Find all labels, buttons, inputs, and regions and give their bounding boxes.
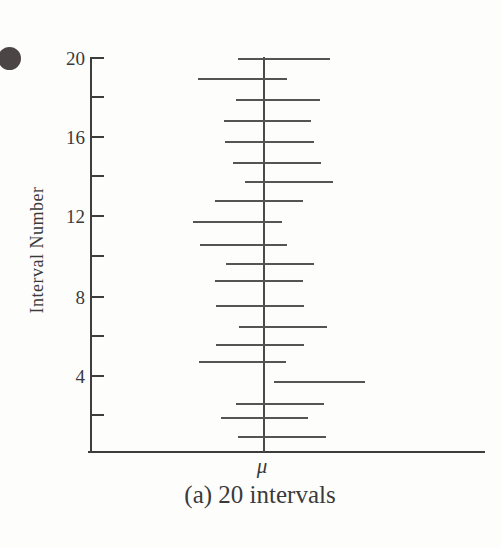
- y-axis-tick-label-16: 16: [52, 128, 85, 147]
- interval-line-12: [193, 221, 282, 224]
- interval-line-14: [245, 181, 333, 184]
- figure-caption: (a) 20 intervals: [184, 481, 335, 509]
- y-axis-tick-12: [91, 215, 104, 217]
- y-axis-tick-label-8: 8: [52, 288, 85, 307]
- interval-line-10: [226, 263, 314, 266]
- interval-line-5: [199, 361, 286, 364]
- y-axis-tick-6: [91, 335, 104, 337]
- interval-line-13: [215, 200, 303, 203]
- y-axis-tick-16: [91, 136, 104, 138]
- interval-line-8: [216, 305, 304, 308]
- y-axis-tick-14: [91, 175, 104, 177]
- interval-line-19: [198, 78, 287, 81]
- interval-line-6: [216, 344, 304, 347]
- interval-line-2: [221, 417, 308, 420]
- y-axis-tick-label-12: 12: [52, 207, 85, 226]
- mu-label: μ: [257, 454, 268, 479]
- interval-line-9: [215, 280, 303, 283]
- confidence-interval-figure: Interval Number μ 20161284 (a) 20 interv…: [0, 0, 501, 548]
- mu-reference-line: [263, 57, 265, 452]
- y-axis-tick-10: [91, 255, 104, 257]
- y-axis-tick-4: [91, 375, 104, 377]
- y-axis-tick-20: [91, 57, 104, 59]
- interval-line-3: [236, 403, 324, 406]
- interval-line-16: [225, 141, 314, 144]
- y-axis-tick-label-4: 4: [52, 367, 85, 386]
- interval-line-1: [238, 436, 326, 439]
- interval-line-7: [239, 326, 327, 329]
- y-axis-tick-8: [91, 296, 104, 298]
- y-axis-tick-2: [91, 414, 104, 416]
- interval-line-11: [200, 244, 287, 247]
- list-bullet-icon: [0, 47, 21, 70]
- interval-line-17: [224, 120, 311, 123]
- interval-line-4: [274, 381, 365, 384]
- y-axis-tick-18: [91, 96, 104, 98]
- interval-line-18: [236, 99, 320, 102]
- interval-line-15: [233, 162, 321, 165]
- y-axis-tick-label-20: 20: [52, 49, 85, 68]
- x-axis-line: [88, 451, 485, 453]
- interval-line-20: [238, 58, 330, 61]
- y-axis-title: Interval Number: [27, 187, 48, 314]
